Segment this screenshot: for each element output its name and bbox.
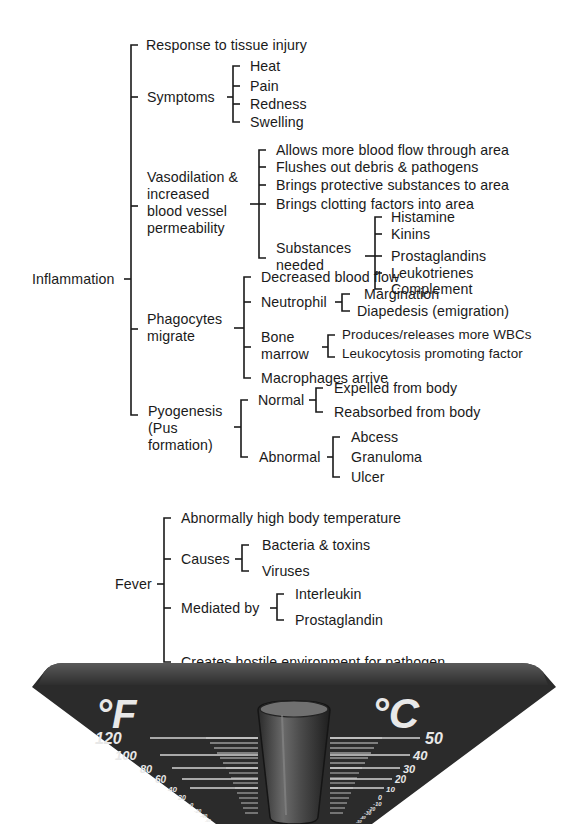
thermometer-illustration: °F °C 120 100 80 60 40 20 0 -20 -40 -60 …	[0, 655, 586, 824]
vasodilation-item: Allows more blood flow through area	[276, 142, 509, 158]
neutrophil-item: Diapedesis (emigration)	[357, 303, 509, 319]
f-tick: 100	[115, 748, 137, 763]
inflammation-root-label: Inflammation	[32, 271, 114, 287]
symptom-item: Redness	[250, 96, 307, 112]
symptom-item: Pain	[250, 78, 279, 94]
neutrophil-node: Neutrophil	[261, 294, 327, 310]
fever-root-label: Fever	[115, 576, 152, 592]
normal-item: Reabsorbed from body	[334, 404, 480, 420]
f-tick: 40	[167, 785, 177, 794]
mediator-item: Prostaglandin	[295, 612, 383, 628]
mediated-by-node: Mediated by	[181, 600, 259, 616]
neutrophil-item: Margination	[364, 286, 439, 302]
thermometer-tube	[258, 701, 330, 824]
symptoms-node: Symptoms	[147, 89, 215, 105]
c-tick: 0	[378, 794, 382, 801]
bone-marrow-node: Bone marrow	[261, 329, 309, 363]
phagocytes-migrate-node: Phagocytes migrate	[147, 311, 222, 345]
vasodilation-item: Flushes out debris & pathogens	[276, 159, 479, 175]
abnormal-item: Abcess	[351, 429, 398, 445]
mediator-item: Interleukin	[295, 586, 362, 602]
symptom-item: Swelling	[250, 114, 304, 130]
substance-item: Kinins	[391, 226, 430, 242]
celsius-unit-label: °C	[372, 690, 420, 737]
normal-item: Expelled from body	[334, 380, 457, 396]
f-tick: -60	[205, 818, 212, 823]
decreased-blood-flow-node: Decreased blood flow	[261, 269, 399, 285]
abnormal-node: Abnormal	[259, 449, 321, 465]
c-tick: 10	[386, 785, 395, 794]
bone-marrow-item: Produces/releases more WBCs	[342, 327, 532, 343]
cause-item: Bacteria & toxins	[262, 537, 370, 553]
substance-item: Leukotrienes	[391, 265, 473, 281]
f-tick: 120	[95, 730, 122, 747]
vasodilation-node: Vasodilation & increased blood vessel pe…	[147, 169, 238, 237]
c-tick: 50	[425, 730, 443, 747]
tube-top	[260, 701, 328, 717]
vasodilation-item: Brings protective substances to area	[276, 177, 509, 193]
f-tick: 80	[140, 763, 153, 775]
high-temp-node: Abnormally high body temperature	[181, 510, 401, 526]
substance-item: Histamine	[391, 209, 455, 225]
abnormal-item: Ulcer	[351, 469, 385, 485]
substance-item: Prostaglandins	[391, 248, 486, 264]
f-tick: 60	[155, 774, 167, 785]
response-to-injury-node: Response to tissue injury	[146, 37, 307, 53]
bone-marrow-item: Leukocytosis promoting factor	[342, 346, 523, 362]
thermometer-rim	[38, 663, 548, 685]
pyogenesis-node: Pyogenesis (Pus formation)	[148, 403, 222, 454]
c-tick: -50	[356, 819, 363, 824]
f-tick: 20	[177, 794, 186, 801]
abnormal-item: Granuloma	[351, 449, 422, 465]
c-tick: 20	[394, 774, 407, 785]
c-tick: 40	[412, 748, 428, 763]
normal-node: Normal	[258, 392, 304, 408]
cause-item: Viruses	[262, 563, 310, 579]
symptom-item: Heat	[250, 58, 280, 74]
causes-node: Causes	[181, 551, 230, 567]
